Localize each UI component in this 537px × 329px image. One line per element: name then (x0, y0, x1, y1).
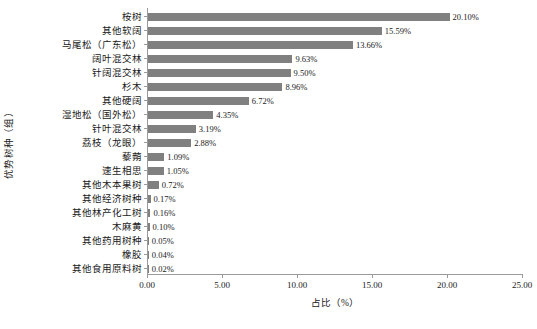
y-axis-tick (144, 240, 147, 241)
bar-value-label: 6.72% (252, 94, 274, 108)
bar-value-label: 0.05% (152, 234, 174, 248)
bar[interactable] (148, 13, 450, 21)
bar[interactable] (148, 97, 249, 105)
x-axis-tick-label: 0.00 (117, 280, 177, 290)
bar[interactable] (148, 209, 150, 217)
chart-row: 其他木本果树0.72% (147, 178, 522, 192)
x-axis-tick (447, 274, 448, 278)
bar[interactable] (148, 139, 191, 147)
category-label: 桉树 (122, 10, 142, 24)
bar[interactable] (148, 55, 292, 63)
bar-value-label: 0.10% (153, 220, 175, 234)
bar-value-label: 20.10% (453, 10, 479, 24)
bar[interactable] (148, 181, 159, 189)
y-axis-tick (144, 170, 147, 171)
chart-row: 杉木8.96% (147, 80, 522, 94)
x-axis-tick (297, 274, 298, 278)
bar[interactable] (148, 167, 164, 175)
chart-row: 速生相思1.05% (147, 164, 522, 178)
bar[interactable] (148, 41, 353, 49)
y-axis-tick (144, 58, 147, 59)
x-axis-title: 占比（%） (147, 295, 523, 309)
chart-row: 其他药用树种0.05% (147, 234, 522, 248)
chart-row: 湿地松（国外松）4.35% (147, 108, 522, 122)
x-axis-tick-label: 5.00 (192, 280, 252, 290)
category-label: 橡胶 (122, 248, 142, 262)
bar-value-label: 3.19% (199, 122, 221, 136)
category-label: 速生相思 (102, 164, 142, 178)
bar[interactable] (148, 265, 149, 273)
y-axis-tick (144, 72, 147, 73)
category-label: 荔枝（龙眼） (82, 136, 142, 150)
category-label: 其他食用原料树 (72, 262, 142, 276)
y-axis-tick (144, 128, 147, 129)
bar[interactable] (148, 125, 196, 133)
y-axis-tick (144, 142, 147, 143)
bar-value-label: 9.63% (295, 52, 317, 66)
y-axis-title-label: 优势树种（组） (1, 107, 15, 179)
category-label: 湿地松（国外松） (62, 108, 142, 122)
chart-row: 藜蒴1.09% (147, 150, 522, 164)
y-axis-tick (144, 268, 147, 269)
bar-value-label: 8.96% (285, 80, 307, 94)
x-axis-tick (222, 274, 223, 278)
x-axis-tick-label: 15.00 (342, 280, 402, 290)
y-axis-tick (144, 16, 147, 17)
category-label: 其他硬阔 (102, 94, 142, 108)
y-axis-tick (144, 44, 147, 45)
chart-row: 木麻黄0.10% (147, 220, 522, 234)
chart-row: 橡胶0.04% (147, 248, 522, 262)
category-label: 其他软阔 (102, 24, 142, 38)
chart-row: 荔枝（龙眼）2.88% (147, 136, 522, 150)
x-axis-tick-label: 10.00 (267, 280, 327, 290)
bar[interactable] (148, 153, 164, 161)
chart-row: 针叶混交林3.19% (147, 122, 522, 136)
y-axis-tick (144, 100, 147, 101)
bar[interactable] (148, 111, 213, 119)
bar[interactable] (148, 251, 149, 259)
category-label: 针阔混交林 (92, 66, 142, 80)
bar[interactable] (148, 195, 151, 203)
category-label: 其他经济树种 (82, 192, 142, 206)
bar-value-label: 9.50% (294, 66, 316, 80)
chart-row: 其他食用原料树0.02% (147, 262, 522, 276)
plot-area: 桉树20.10%其他软阔15.59%马尾松（广东松）13.66%阔叶混交林9.6… (147, 8, 522, 274)
x-axis-tick (372, 274, 373, 278)
bar[interactable] (148, 27, 382, 35)
bar-value-label: 0.72% (162, 178, 184, 192)
x-axis-tick (522, 274, 523, 278)
bar-value-label: 1.05% (167, 164, 189, 178)
bar[interactable] (148, 83, 282, 91)
y-axis-tick (144, 30, 147, 31)
y-axis-tick (144, 86, 147, 87)
bar[interactable] (148, 223, 150, 231)
bar-value-label: 0.04% (152, 248, 174, 262)
bar-value-label: 2.88% (194, 136, 216, 150)
chart-row: 其他经济树种0.17% (147, 192, 522, 206)
x-axis-tick-label: 20.00 (417, 280, 477, 290)
bar-value-label: 0.02% (152, 262, 174, 276)
chart-row: 其他硬阔6.72% (147, 94, 522, 108)
bar-value-label: 13.66% (356, 38, 382, 52)
y-axis-title: 优势树种（组） (0, 78, 16, 208)
category-label: 其他木本果树 (82, 178, 142, 192)
category-label: 针叶混交林 (92, 122, 142, 136)
chart-row: 针阔混交林9.50% (147, 66, 522, 80)
y-axis-tick (144, 226, 147, 227)
y-axis-tick (144, 198, 147, 199)
bar[interactable] (148, 69, 291, 77)
bar-value-label: 0.17% (154, 192, 176, 206)
bar-value-label: 0.16% (153, 206, 175, 220)
bar[interactable] (148, 237, 149, 245)
category-label: 其他林产化工树 (72, 206, 142, 220)
bar-value-label: 15.59% (385, 24, 411, 38)
category-label: 马尾松（广东松） (62, 38, 142, 52)
chart-row: 其他软阔15.59% (147, 24, 522, 38)
chart-row: 阔叶混交林9.63% (147, 52, 522, 66)
chart-row: 其他林产化工树0.16% (147, 206, 522, 220)
y-axis-tick (144, 212, 147, 213)
chart-row: 马尾松（广东松）13.66% (147, 38, 522, 52)
y-axis-tick (144, 114, 147, 115)
chart-row: 桉树20.10% (147, 10, 522, 24)
bar-value-label: 4.35% (216, 108, 238, 122)
